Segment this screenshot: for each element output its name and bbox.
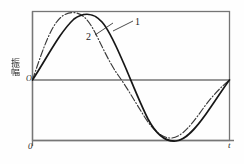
waveform-plot: [0, 0, 244, 164]
y-axis-label: 振幅: [4, 58, 20, 76]
curve-2-path: [33, 13, 230, 139]
x-axis-label: t: [228, 140, 231, 150]
figure-container: 振幅 O 0 t 1 2: [0, 0, 244, 164]
x-axis-origin-label: 0: [28, 141, 33, 151]
origin-label: O: [26, 74, 32, 83]
curve-2-label: 2: [86, 31, 91, 42]
curve-1-leader-line: [113, 21, 133, 31]
curve-1-label: 1: [135, 16, 140, 27]
curve-1-path: [33, 14, 230, 141]
